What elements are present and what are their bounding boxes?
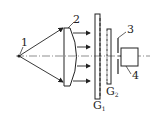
grating-g2 <box>107 29 111 84</box>
grating-g1 <box>95 14 100 99</box>
label-aperture: 3 <box>127 24 134 35</box>
label-detector: 4 <box>132 70 139 81</box>
label-source: 1 <box>21 37 28 48</box>
optical-diagram: 1 2 3 4 G1 G2 <box>0 0 156 118</box>
collimating-lens <box>64 28 77 86</box>
g1-subscript: 1 <box>102 105 106 112</box>
g1-letter: G <box>93 99 102 112</box>
label-g2: G2 <box>106 86 119 98</box>
g2-letter: G <box>106 85 115 98</box>
g2-subscript: 2 <box>115 91 119 98</box>
label-g1: G1 <box>93 100 106 112</box>
detector <box>121 48 138 66</box>
label-lens: 2 <box>73 14 80 25</box>
